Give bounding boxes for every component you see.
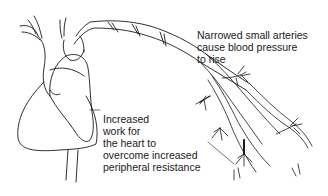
artery-branches: [196, 54, 312, 180]
arteries-label: Narrowed small arteries cause blood pres…: [197, 29, 308, 65]
heart-label-line-5: peripheral resistance: [103, 161, 200, 173]
heart-label-line-4: overcome increased: [103, 149, 200, 161]
heart-label-line-3: the heart to: [103, 137, 200, 149]
heart-label-line-2: work for: [103, 125, 200, 137]
arteries-label-line-1: Narrowed small arteries: [197, 29, 308, 41]
heart-workload-label: Increased work for the heart to overcome…: [103, 113, 200, 173]
arteries-label-line-3: to rise: [197, 53, 308, 65]
heart-label-line-1: Increased: [103, 113, 200, 125]
arteries-label-line-2: cause blood pressure: [197, 41, 308, 53]
